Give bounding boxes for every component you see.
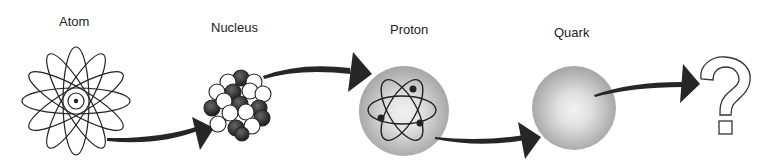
nucleus-cluster-icon: [204, 70, 271, 141]
proton-sphere-icon: [359, 66, 449, 156]
arrow-atom-to-nucleus: [107, 117, 214, 150]
quark-sphere-icon: [532, 66, 616, 150]
diagram-canvas: [0, 0, 774, 166]
arrow-nucleus-to-proton: [263, 52, 372, 92]
arrow-proton-to-quark: [435, 122, 541, 159]
question-mark-icon: [701, 57, 750, 134]
